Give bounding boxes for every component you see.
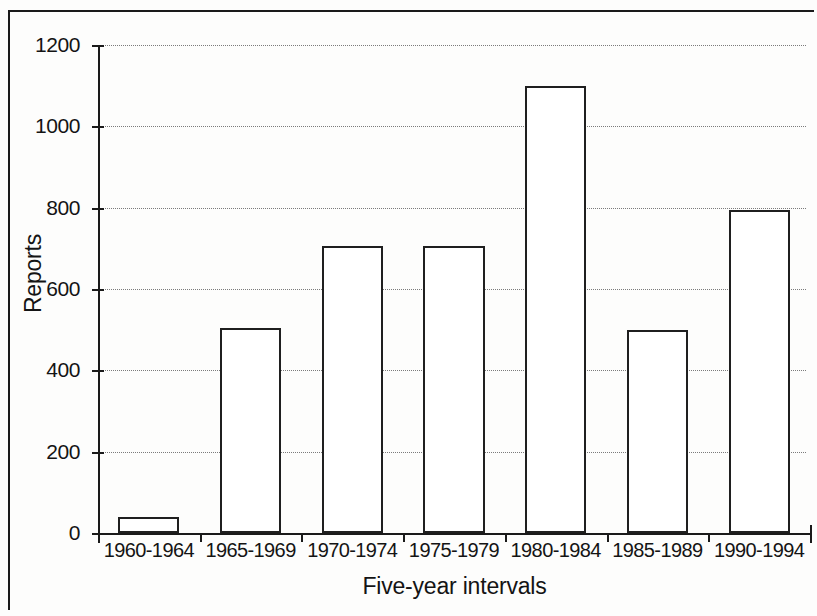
figure-page: 020040060080010001200 1960-19641965-1969…: [0, 0, 817, 616]
x-axis-line: [98, 533, 811, 535]
x-axis-tick: [810, 525, 812, 543]
bar-chart: 020040060080010001200 1960-19641965-1969…: [0, 0, 817, 616]
bar: [627, 330, 688, 533]
x-axis-tick-label: 1960-1964: [98, 539, 200, 562]
bar: [423, 246, 484, 533]
x-axis-tick-label: 1975-1979: [403, 539, 505, 562]
gridline: [100, 208, 806, 209]
x-axis-tick-label: 1990-1994: [708, 539, 810, 562]
bar: [729, 210, 790, 533]
y-axis-tick-label: 0: [14, 522, 80, 543]
y-axis-tick: [92, 45, 104, 47]
y-axis-tick: [92, 452, 104, 454]
y-axis-tick: [92, 289, 104, 291]
bar: [118, 517, 179, 533]
gridline: [100, 45, 806, 46]
y-axis-tick-label: 1200: [14, 34, 80, 55]
y-axis-tick-label: 200: [14, 441, 80, 462]
bar: [322, 246, 383, 533]
bar: [220, 328, 281, 533]
x-axis-tick-label: 1980-1984: [505, 539, 607, 562]
bar: [525, 86, 586, 533]
y-axis-title: Reports: [20, 214, 47, 334]
y-axis-tick: [92, 126, 104, 128]
y-axis-tick-label: 400: [14, 359, 80, 380]
y-axis-tick-label: 1000: [14, 115, 80, 136]
x-axis-tick-label: 1965-1969: [200, 539, 302, 562]
gridline: [100, 126, 806, 127]
x-axis-tick-label: 1985-1989: [607, 539, 709, 562]
y-axis-tick: [92, 208, 104, 210]
y-axis-tick: [92, 370, 104, 372]
x-axis-tick-label: 1970-1974: [301, 539, 403, 562]
x-axis-title: Five-year intervals: [98, 573, 811, 600]
